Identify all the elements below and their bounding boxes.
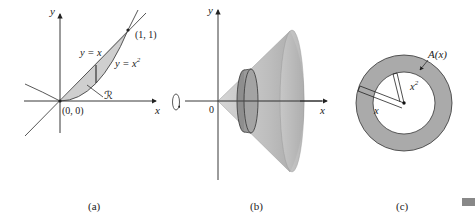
x-axis-label-c: x [319,104,325,116]
line-label: y = x [79,47,102,58]
caption-c: (c) [396,200,409,213]
washer-center [402,101,405,104]
origin-label-b: 0 [209,104,214,115]
y-axis-label-b: y [207,4,213,16]
parabola-label-base: y = x [114,58,137,69]
parabola-label: y = x2 [114,56,141,69]
region-label: ℛ [104,89,113,101]
rotation-icon [173,94,181,110]
caption-b: (b) [250,200,263,213]
point-1-1-label: (1, 1) [135,29,157,41]
origin-point [58,99,61,102]
panel-a: y x (1, 1) (0, 0) y = x y = x2 ℛ (a) [24,5,160,213]
parabola-label-exp: 2 [137,56,141,64]
y-axis-label: y [49,5,55,17]
area-label: A(x) [427,48,447,61]
caption-a: (a) [88,200,101,213]
outer-radius-label: x [373,105,379,116]
region-pointer [87,85,103,97]
point-1-1 [126,28,129,31]
panel-b: y 0 (b) [185,4,322,213]
origin-label: (0, 0) [62,105,84,117]
page-edge-marker [462,198,475,206]
panel-c: x A(x) x x2 (c) [300,48,452,213]
inner-radius-exp: 2 [415,79,419,87]
x-axis-label: x [154,104,160,116]
